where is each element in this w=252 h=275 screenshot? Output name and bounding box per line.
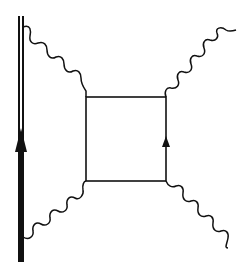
diagram-canvas [0,0,252,275]
feynman-diagram [0,0,252,275]
photon-top-left [23,26,86,97]
heavy-line-arrow-icon [15,128,27,152]
photon-bottom-right [166,181,228,248]
fermion-loop-box [86,97,166,181]
photon-bottom-left [23,181,86,238]
loop-arrow-icon [162,136,170,147]
photon-top-right [165,28,236,97]
